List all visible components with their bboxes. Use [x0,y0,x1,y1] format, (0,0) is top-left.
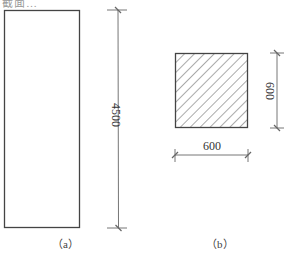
caption-b: （b） [206,235,234,251]
cross-section-hatch [175,53,247,127]
dimension-600-horizontal-label: 600 [203,139,221,153]
dimension-4500-label: 4500 [109,103,123,127]
dimension-600-vertical-label: 600 [263,82,277,100]
column-elevation-rect [5,11,80,228]
drawing-canvas: 4500 600 600 [0,0,288,253]
caption-a: （a） [52,235,79,251]
